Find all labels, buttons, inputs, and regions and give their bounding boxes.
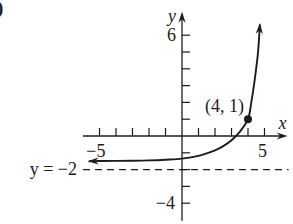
point-label: (4, 1) bbox=[205, 96, 244, 117]
axes bbox=[83, 12, 288, 221]
y-axis-label: y bbox=[166, 6, 176, 26]
x-axis-label: x bbox=[278, 113, 287, 133]
y-tick-label-6: 6 bbox=[167, 25, 176, 45]
x-tick-label-neg5: −5 bbox=[86, 141, 105, 161]
figure-label: ) bbox=[0, 0, 3, 19]
x-tick-label-5: 5 bbox=[258, 141, 267, 161]
asymptote-label: y = −2 bbox=[30, 159, 77, 179]
function-graph: ) x y −5 5 6 −4 y = −2 (4, 1) bbox=[0, 0, 293, 224]
y-tick-label-neg4: −4 bbox=[156, 193, 175, 213]
function-curve bbox=[90, 25, 260, 161]
point-marker bbox=[244, 115, 252, 123]
